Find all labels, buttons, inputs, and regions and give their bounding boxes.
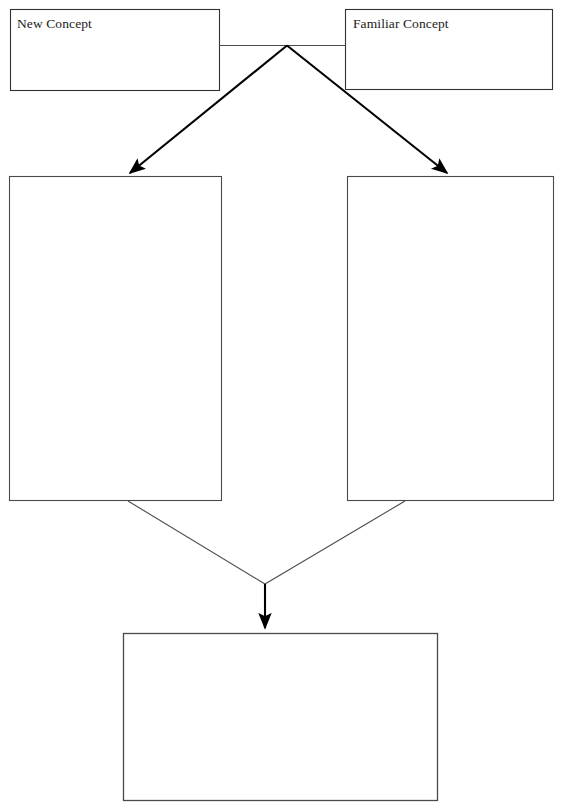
box-left-detail[interactable] xyxy=(10,177,222,501)
box-right-detail[interactable] xyxy=(348,177,554,501)
box-familiar-concept-label: Familiar Concept xyxy=(353,16,449,32)
page-edge-artifact-glyph: ‘ xyxy=(9,799,13,806)
diagram-page: New Concept Familiar Concept ‘ xyxy=(0,0,566,812)
page-edge-artifact: ‘ xyxy=(9,799,25,810)
concept-comparison-diagram xyxy=(0,0,566,812)
connector-left-detail-to-junction xyxy=(128,501,265,584)
box-conclusion[interactable] xyxy=(124,634,438,801)
box-new-concept-label: New Concept xyxy=(17,16,92,32)
connector-right-detail-to-junction xyxy=(265,501,405,584)
